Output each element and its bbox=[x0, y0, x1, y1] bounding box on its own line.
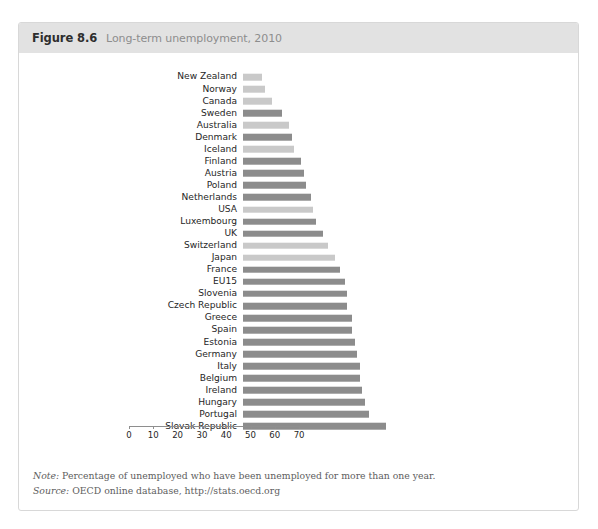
bar-track bbox=[243, 143, 559, 155]
bar-row: Germany bbox=[139, 348, 559, 360]
bar-track bbox=[243, 155, 559, 167]
bar-category-label: France bbox=[139, 265, 243, 274]
bar-track bbox=[243, 228, 559, 240]
bar-row: Norway bbox=[139, 83, 559, 95]
bar-category-label: EU15 bbox=[139, 277, 243, 286]
bar-track bbox=[243, 95, 559, 107]
figure-source: Source: OECD online database, http://sta… bbox=[33, 483, 578, 498]
bar-category-label: UK bbox=[139, 229, 243, 238]
bar-category-label: Hungary bbox=[139, 398, 243, 407]
figure-note: Note: Percentage of unemployed who have … bbox=[33, 468, 578, 483]
bar-category-label: Italy bbox=[139, 362, 243, 371]
x-axis-tick-label: 20 bbox=[172, 430, 183, 440]
source-lead: Source: bbox=[33, 485, 69, 496]
bar-rows: New ZealandNorwayCanadaSwedenAustraliaDe… bbox=[139, 71, 559, 432]
bar bbox=[243, 411, 369, 418]
bar-track bbox=[243, 396, 559, 408]
bar-category-label: Luxembourg bbox=[139, 217, 243, 226]
bar bbox=[243, 86, 265, 93]
bar bbox=[243, 327, 352, 334]
bar bbox=[243, 206, 313, 213]
bar-row: Spain bbox=[139, 324, 559, 336]
bar bbox=[243, 110, 282, 117]
bar-row: Belgium bbox=[139, 372, 559, 384]
bar-track bbox=[243, 167, 559, 179]
bar bbox=[243, 218, 316, 225]
bar-track bbox=[243, 216, 559, 228]
bar-category-label: Ireland bbox=[139, 386, 243, 395]
bar bbox=[243, 158, 301, 165]
bar-row: Austria bbox=[139, 167, 559, 179]
bar bbox=[243, 339, 355, 346]
bar-row: Portugal bbox=[139, 408, 559, 420]
bar-track bbox=[243, 131, 559, 143]
bar bbox=[243, 279, 345, 286]
note-text: Percentage of unemployed who have been u… bbox=[59, 470, 435, 481]
bar bbox=[243, 146, 294, 153]
x-axis-tick bbox=[202, 426, 203, 429]
bar-row: UK bbox=[139, 228, 559, 240]
bar-category-label: Slovenia bbox=[139, 289, 243, 298]
bar bbox=[243, 315, 352, 322]
bar-category-label: Spain bbox=[139, 325, 243, 334]
bar-track bbox=[243, 408, 559, 420]
note-lead: Note: bbox=[33, 470, 59, 481]
x-axis-tick bbox=[226, 426, 227, 429]
bar bbox=[243, 170, 304, 177]
bar bbox=[243, 387, 362, 394]
bar-track bbox=[243, 264, 559, 276]
bar-category-label: Canada bbox=[139, 97, 243, 106]
bar-track bbox=[243, 372, 559, 384]
bar bbox=[243, 254, 335, 261]
bar-row: Denmark bbox=[139, 131, 559, 143]
bar-row: Finland bbox=[139, 155, 559, 167]
bar-track bbox=[243, 119, 559, 131]
bar-row: Switzerland bbox=[139, 240, 559, 252]
bar bbox=[243, 266, 340, 273]
bar bbox=[243, 291, 347, 298]
bar-row: Ireland bbox=[139, 384, 559, 396]
bar-category-label: Austria bbox=[139, 169, 243, 178]
bar bbox=[243, 194, 311, 201]
figure-title: Long-term unemployment, 2010 bbox=[106, 32, 282, 45]
bar bbox=[243, 74, 262, 81]
figure-card: Figure 8.6 Long-term unemployment, 2010 … bbox=[18, 22, 579, 511]
chart-area: New ZealandNorwayCanadaSwedenAustraliaDe… bbox=[19, 53, 578, 463]
bar bbox=[243, 399, 365, 406]
bar bbox=[243, 242, 328, 249]
bar-row: Italy bbox=[139, 360, 559, 372]
x-axis-tick-label: 40 bbox=[221, 430, 232, 440]
x-axis-line bbox=[129, 426, 299, 427]
bar-row: Estonia bbox=[139, 336, 559, 348]
x-axis-tick bbox=[153, 426, 154, 429]
bar-row: Netherlands bbox=[139, 191, 559, 203]
bar-category-label: Norway bbox=[139, 85, 243, 94]
bar bbox=[243, 98, 272, 105]
bar-row: Luxembourg bbox=[139, 216, 559, 228]
bar-category-label: Poland bbox=[139, 181, 243, 190]
bar-track bbox=[243, 252, 559, 264]
bar-track bbox=[243, 107, 559, 119]
bar-track bbox=[243, 384, 559, 396]
x-axis-tick bbox=[129, 426, 130, 429]
bar-row: Slovenia bbox=[139, 288, 559, 300]
bar-category-label: Finland bbox=[139, 157, 243, 166]
bar bbox=[243, 363, 360, 370]
bar-category-label: Greece bbox=[139, 313, 243, 322]
x-axis-tick-label: 10 bbox=[148, 430, 159, 440]
bar-track bbox=[243, 71, 559, 83]
bar-track bbox=[243, 312, 559, 324]
source-text: OECD online database, http://stats.oecd.… bbox=[69, 485, 280, 496]
x-axis-tick-label: 70 bbox=[294, 430, 305, 440]
bar-row: Australia bbox=[139, 119, 559, 131]
bar bbox=[243, 375, 360, 382]
bar-row: New Zealand bbox=[139, 71, 559, 83]
x-axis-tick-label: 0 bbox=[126, 430, 131, 440]
x-axis-tick bbox=[178, 426, 179, 429]
bar-category-label: Portugal bbox=[139, 410, 243, 419]
bar bbox=[243, 230, 323, 237]
x-axis: 010203040506070 bbox=[129, 426, 439, 456]
bar-category-label: USA bbox=[139, 205, 243, 214]
bar-category-label: Belgium bbox=[139, 374, 243, 383]
bar-category-label: Estonia bbox=[139, 338, 243, 347]
